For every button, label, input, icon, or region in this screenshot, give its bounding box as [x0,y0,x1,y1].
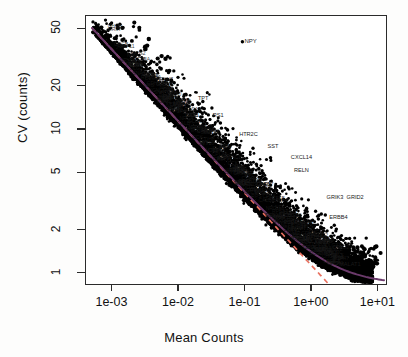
y-tick-label: 5 [49,151,63,191]
gene-label: RS1 [213,112,224,118]
gene-label: RPS [323,237,333,243]
gene-label: RPL2 [272,208,285,214]
gene-label: CCK1 [308,238,321,244]
y-tick-label: 2 [49,209,63,249]
y-tick-mark [77,28,85,29]
gene-label: VIP [292,230,300,236]
x-tick-label: 1e+00 [281,295,341,309]
y-tick-mark [77,128,85,129]
gene-label: CALB [186,112,199,118]
gene-label: SCG23 [188,118,204,124]
gene-label: SNA1 [132,70,145,76]
gene-label: NPY [244,38,256,44]
gene-label: SYT18 [199,140,214,146]
y-tick-label: 10 [49,108,63,148]
gene-label: CXCL14 [291,154,312,160]
gene-label: RELN [294,167,309,173]
plot-frame: NPYCXCL14RELNGRID2GRIK3ERBB4HTR2CSSTTPTR… [85,15,387,285]
gene-label: SST [267,143,278,149]
gene-label: GRID2 [347,194,364,200]
gene-label: GRIK3 [327,194,344,200]
gene-label: GFA6 [314,244,327,250]
gene-label: SLC17 [266,195,281,201]
gene-label: MT1 [328,260,338,266]
gene-label: CHGB [108,23,122,29]
gene-label: ATP11 [120,43,135,49]
x-tick-label: 1e-03 [81,295,141,309]
gene-label: KCNC [159,90,173,96]
y-tick-label: 1 [49,252,63,292]
gene-label: DLG2 [243,184,256,190]
x-axis-title: Mean Counts [0,330,408,345]
gene-label: PVA [158,78,168,84]
gene-label: GRIA [213,156,225,162]
y-tick-label: 20 [49,65,63,105]
x-tick-label: 1e-02 [148,295,208,309]
gene-label: MT1 [173,100,183,106]
x-tick-label: 1e-01 [214,295,274,309]
gene-label: NRXN [233,166,247,172]
gene-label: GAD1 [256,181,270,187]
gene-label: VIP5 [148,72,159,78]
gene-label: SCG2 [309,231,323,237]
y-tick-mark [77,229,85,230]
gene-label: HTR2C [239,131,258,137]
chart-canvas: CV (counts) Mean Counts 502010521 1e-031… [0,0,408,357]
gene-label: CPLX [212,147,225,153]
gene-label: TPT [198,95,209,101]
gene-label: NRXN [189,124,203,130]
y-tick-mark [77,172,85,173]
gene-label: TAC14 [296,219,311,225]
gene-label: TAC1 [228,154,240,160]
gene-label: CDH8 [128,61,142,67]
gene-label: PCP48 [203,128,219,134]
x-tick-label: 1e+01 [347,295,407,309]
y-tick-mark [77,272,85,273]
y-tick-mark [77,85,85,86]
y-tick-label: 50 [49,7,63,47]
gene-label: ERBB4 [329,214,347,220]
gene-label: ATP12 [168,107,183,113]
y-axis-title: CV (counts) [15,28,30,188]
